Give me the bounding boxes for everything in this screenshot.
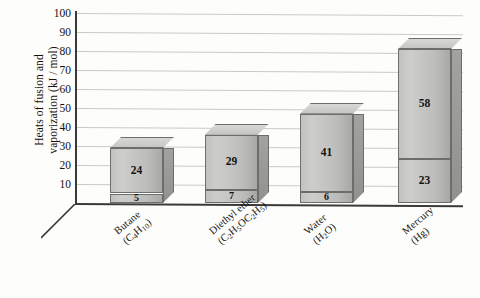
bar-segment-vaporization[interactable]: 58: [398, 49, 451, 159]
bar-value-vaporization: 58: [399, 98, 450, 109]
category-label-butane: Butane(C4H10): [112, 206, 156, 249]
y-tick-label: 60: [39, 84, 71, 94]
gridline: [76, 32, 463, 35]
category-label-water: Water(H2O): [302, 211, 340, 249]
y-tick-label: 20: [39, 160, 71, 170]
y-tick-label: 40: [39, 122, 71, 132]
bar-side-face: [163, 148, 174, 203]
bar-top-face: [110, 137, 174, 148]
y-tick-label: 10: [39, 179, 71, 189]
y-axis-ticks: 102030405060708090100: [39, 0, 71, 298]
bar-segment-fusion[interactable]: 23: [398, 159, 451, 203]
x-axis-baseline: [75, 203, 463, 207]
category-label-mercury: Mercury(Hg): [400, 204, 444, 247]
floor-perspective-edges: [41, 204, 87, 237]
bar-side-face: [258, 135, 269, 203]
bar-value-fusion: 23: [399, 175, 450, 186]
bar-value-fusion: 5: [111, 193, 162, 204]
y-tick-label: 100: [39, 8, 71, 18]
bar-value-fusion: 6: [301, 192, 352, 203]
bar-side-face: [451, 49, 462, 203]
bar-top-face: [205, 124, 269, 135]
chart-figure: Heats of fusion and vaporization (kJ / m…: [0, 0, 480, 298]
y-tick-label: 70: [39, 65, 71, 75]
y-tick-label: 80: [39, 46, 71, 56]
bar-segment-vaporization[interactable]: 24: [110, 148, 163, 194]
y-axis-line: [75, 11, 77, 204]
bar-value-vaporization: 41: [301, 147, 352, 158]
bar-top-face: [398, 38, 462, 49]
y-tick-label: 30: [39, 141, 71, 151]
bar-top-face: [300, 103, 364, 114]
bar-segment-fusion[interactable]: 6: [300, 192, 353, 203]
bar-value-vaporization: 29: [206, 156, 257, 167]
bar-segment-fusion[interactable]: 5: [110, 194, 163, 204]
bar-side-face: [353, 114, 364, 203]
y-tick-label: 50: [39, 103, 71, 113]
gridline: [76, 13, 463, 16]
y-tick-label: 90: [39, 27, 71, 37]
bar-segment-vaporization[interactable]: 41: [300, 114, 353, 192]
bar-value-vaporization: 24: [111, 165, 162, 176]
bar-segment-vaporization[interactable]: 29: [205, 135, 258, 190]
